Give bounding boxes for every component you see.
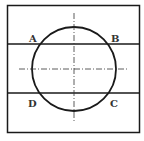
- label-c: C: [110, 98, 118, 109]
- label-a: A: [28, 33, 37, 44]
- geometry-diagram: A B D C: [0, 0, 144, 141]
- label-d: D: [28, 98, 37, 109]
- label-b: B: [111, 33, 119, 44]
